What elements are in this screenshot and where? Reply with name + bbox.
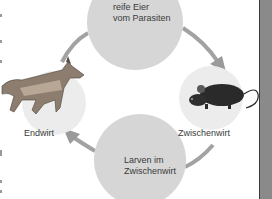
- larvae-label-line2: Zwischenwirt: [124, 166, 176, 177]
- eggs-label-line1: reife Eier: [113, 2, 171, 13]
- arrow-wolf-to-eggs: [62, 33, 88, 62]
- mouse-icon: [189, 84, 258, 109]
- intermediate-host-label: Zwischenwirt: [178, 128, 230, 139]
- arrow-mouse-to-larvae: [185, 145, 213, 167]
- larvae-label: Larven im Zwischenwirt: [124, 155, 176, 177]
- eggs-label: reife Eier vom Parasiten: [113, 2, 171, 24]
- definitive-host-label: Endwirt: [24, 128, 54, 139]
- left-text-fragments: [0, 0, 4, 199]
- life-cycle-diagram: reife Eier vom Parasiten Endwirt Zwische…: [0, 0, 260, 199]
- arrow-eggs-to-mouse: [183, 28, 218, 62]
- right-scrollbar-edge: [259, 0, 272, 199]
- larvae-label-line1: Larven im: [124, 155, 176, 166]
- eggs-label-line2: vom Parasiten: [113, 13, 171, 24]
